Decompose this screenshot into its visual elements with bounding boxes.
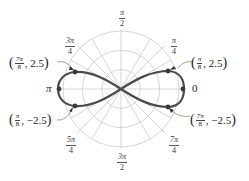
angle-label-7pi-over-4: 7π 4 <box>169 136 179 155</box>
point-pi-over-8 <box>166 69 171 74</box>
angle-label-zero: 0 <box>192 82 198 94</box>
arrowhead-icon <box>69 66 74 70</box>
point-pi-over-8-neg <box>73 104 78 109</box>
annotation-upper-left: ( 7π8 , 2.5 ) <box>9 55 49 71</box>
angle-label-3pi-over-4: 3π 4 <box>65 37 75 56</box>
point-0 <box>181 87 186 92</box>
point-7pi-over-8 <box>73 70 78 75</box>
point-pi <box>57 87 62 92</box>
angle-label-pi-over-2: π 2 <box>119 9 125 28</box>
annotation-upper-right: ( π8 , 2.5 ) <box>191 55 227 71</box>
annotation-lower-left: ( π8 , −2.5 ) <box>9 112 51 128</box>
angle-label-3pi-over-2: 3π 2 <box>117 153 127 172</box>
annotation-lower-right: ( 7π8 , −2.5 ) <box>190 112 236 128</box>
angle-label-5pi-over-4: 5π 4 <box>66 136 76 155</box>
arrowhead-icon <box>69 107 73 112</box>
angle-label-pi: π <box>46 82 52 94</box>
arrowhead-icon <box>170 66 176 70</box>
angle-label-pi-over-4: π 4 <box>171 37 177 56</box>
